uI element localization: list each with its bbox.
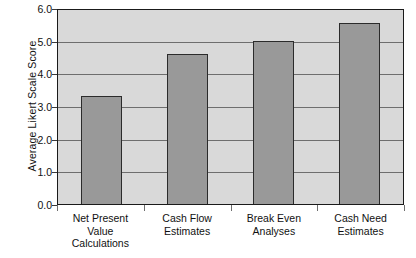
y-axis-tick-label: 4.0 [16,69,52,79]
x-axis-tick-mark [404,205,405,211]
bar[interactable] [253,41,294,204]
x-axis-tick-mark [231,205,232,211]
y-axis-tick-mark [52,74,57,75]
x-axis-category-label-line: Calculations [57,237,144,250]
y-axis-tick-label: 2.0 [16,135,52,145]
y-axis-tick-mark [52,172,57,173]
x-axis-category-label-line: Value [57,225,144,238]
x-axis-category-label-line: Break Even [231,212,318,225]
y-axis-tick-label: 0.0 [16,200,52,210]
y-axis-tick-label: 1.0 [16,167,52,177]
x-axis-category-label-line: Estimates [144,225,231,238]
x-axis-category-label-line: Net Present [57,212,144,225]
bar-slot [231,10,317,204]
x-axis-category-label: Break EvenAnalyses [231,212,318,250]
x-axis-category-labels: Net PresentValueCalculationsCash FlowEst… [57,212,404,250]
bar-chart: Average Likert Scale Score 6.05.04.03.02… [0,0,416,258]
x-axis-category-label: Net PresentValueCalculations [57,212,144,250]
x-axis-tick-mark [144,205,145,211]
y-axis-tick-mark [52,205,57,206]
bar-slot [144,10,230,204]
y-axis-tick-mark [52,140,57,141]
x-axis-ticks [57,205,404,211]
bar[interactable] [339,23,380,204]
y-axis-tick-mark [52,107,57,108]
x-axis-tick-mark [317,205,318,211]
plot-area [57,9,404,205]
x-axis-category-label: Cash NeedEstimates [317,212,404,250]
bars-layer [58,10,403,204]
bar[interactable] [167,54,208,204]
y-axis-tick-label: 6.0 [16,4,52,14]
bar-slot [317,10,403,204]
y-axis-tick-mark [52,9,57,10]
y-axis-tick-labels: 6.05.04.03.02.01.00.0 [16,0,52,258]
x-axis-category-label: Cash FlowEstimates [144,212,231,250]
x-axis-category-label-line: Cash Flow [144,212,231,225]
x-axis-category-label-line: Cash Need [317,212,404,225]
x-axis-tick-mark [57,205,58,211]
bar-slot [58,10,144,204]
x-axis-category-label-line: Estimates [317,225,404,238]
x-axis-category-label-line: Analyses [231,225,318,238]
y-axis-tick-mark [52,42,57,43]
bar[interactable] [81,96,122,204]
y-axis-tick-label: 3.0 [16,102,52,112]
y-axis-tick-label: 5.0 [16,37,52,47]
